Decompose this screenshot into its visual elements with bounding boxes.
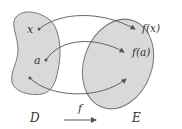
label-fa: f(a) <box>131 46 150 58</box>
label-a: a <box>34 54 41 67</box>
label-f: f <box>77 102 84 115</box>
point-third <box>29 77 32 80</box>
function-mapping-diagram: x a f(x) f(a) D E f <box>0 0 182 129</box>
label-x: x <box>27 23 34 36</box>
point-x <box>38 28 41 31</box>
label-D: D <box>29 111 40 125</box>
label-fx: f(x) <box>141 22 160 34</box>
point-a <box>45 59 48 62</box>
label-E: E <box>131 111 141 125</box>
